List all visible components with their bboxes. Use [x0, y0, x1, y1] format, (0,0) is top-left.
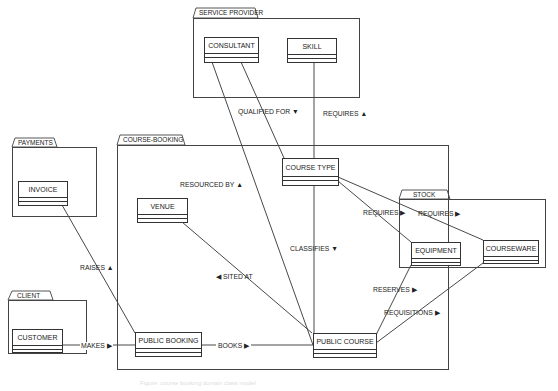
- class-name: COURSEWARE: [484, 241, 538, 257]
- label-classifies: CLASSIFIES ▼: [290, 245, 338, 253]
- class-skill[interactable]: SKILL: [287, 38, 337, 63]
- class-public-booking[interactable]: PUBLIC BOOKING: [135, 332, 202, 357]
- class-venue[interactable]: VENUE: [137, 198, 188, 223]
- package-label: PAYMENTS: [18, 139, 53, 146]
- class-course-type[interactable]: COURSE TYPE: [282, 158, 339, 186]
- label-requires-skill: REQUIRES ▲: [323, 110, 367, 118]
- class-public-course[interactable]: PUBLIC COURSE: [313, 333, 377, 358]
- class-name: INVOICE: [19, 182, 67, 198]
- label-sited-at: ◀ SITED AT: [216, 273, 253, 281]
- label-books: BOOKS ▶: [216, 342, 251, 350]
- class-name: PUBLIC BOOKING: [136, 333, 201, 349]
- class-consultant[interactable]: CONSULTANT: [204, 37, 259, 63]
- package-tab-client: CLIENT: [8, 291, 40, 302]
- label-requisitions: REQUISITIONS ▶: [384, 309, 440, 317]
- class-name: PUBLIC COURSE: [314, 334, 376, 350]
- package-tab-payments: PAYMENTS: [12, 138, 53, 149]
- label-resourced-by: RESOURCED BY ▲: [180, 181, 243, 189]
- class-name: CUSTOMER: [13, 330, 62, 346]
- package-label: COURSE-BOOKING: [123, 136, 183, 143]
- label-qualified-for: QUALIFIED FOR ▼: [238, 108, 299, 116]
- class-invoice[interactable]: INVOICE: [18, 181, 68, 206]
- package-label: SERVICE PROVIDER: [199, 9, 263, 16]
- package-label: STOCK: [413, 191, 435, 198]
- package-label: CLIENT: [17, 292, 40, 299]
- label-makes: MAKES ▶: [80, 342, 113, 350]
- class-courseware[interactable]: COURSEWARE: [483, 240, 539, 264]
- label-raises: RAISES ▲: [80, 264, 114, 272]
- package-tab-stock: STOCK: [399, 190, 435, 201]
- class-name: CONSULTANT: [205, 38, 258, 54]
- figure-caption: Figure: course booking domain class mode…: [140, 380, 256, 386]
- class-name: VENUE: [138, 199, 187, 215]
- package-tab-course-booking: COURSE-BOOKING: [117, 135, 183, 146]
- class-name: SKILL: [288, 39, 336, 55]
- package-tab-service-provider: SERVICE PROVIDER: [193, 8, 263, 19]
- label-requires-equipment: REQUIRES ▶: [363, 209, 405, 217]
- class-name: EQUIPMENT: [412, 243, 460, 259]
- class-equipment[interactable]: EQUIPMENT: [411, 242, 461, 266]
- label-requires-courseware: REQUIRES ▶: [418, 210, 460, 218]
- class-customer[interactable]: CUSTOMER: [12, 329, 63, 353]
- label-reserves: RESERVES ▶: [373, 286, 417, 294]
- class-name: COURSE TYPE: [283, 159, 338, 177]
